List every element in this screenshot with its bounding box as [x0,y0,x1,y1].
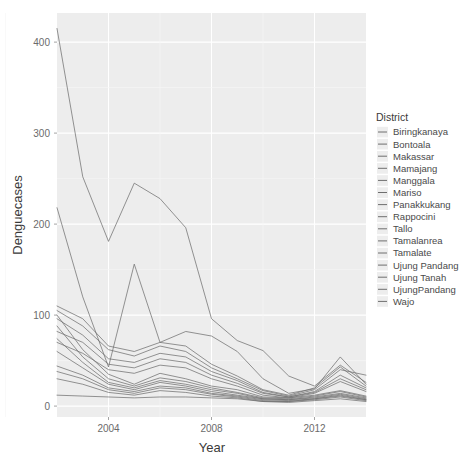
legend-item-label: Tamalanrea [393,235,443,246]
x-tick-label: 2012 [303,423,326,434]
y-tick-label: 100 [33,310,50,321]
legend-item[interactable]: Biringkanaya [377,126,449,137]
chart-container: 200420082012 0100200300400 DistrictBirin… [0,0,469,469]
legend-item[interactable]: Mamajang [377,163,437,174]
dengue-cases-line-chart: 200420082012 0100200300400 DistrictBirin… [0,0,469,469]
legend-item-label: UjungPandang [393,284,456,295]
legend-item-label: Mariso [393,187,422,198]
legend-item-label: Makassar [393,151,434,162]
x-axis-title: Year [199,440,226,455]
y-tick-label: 0 [44,401,50,412]
legend-item-label: Biringkanaya [393,126,449,137]
legend-item-label: Manggala [393,175,435,186]
legend-item[interactable]: Wajo [377,296,414,307]
legend-item-label: Bontoala [393,139,431,150]
y-tick-label: 300 [33,128,50,139]
legend-item-label: Tamalate [393,247,432,258]
legend-item-label: Rappocini [393,211,435,222]
y-tick-label: 400 [33,37,50,48]
legend-item[interactable]: Tamalate [377,247,432,258]
legend-item[interactable]: Manggala [377,175,435,186]
legend-item[interactable]: Tamalanrea [377,235,443,246]
legend-item-label: Ujung Tanah [393,272,446,283]
legend-item[interactable]: Mariso [377,187,422,198]
x-tick-label: 2008 [200,423,223,434]
legend-item-label: Mamajang [393,163,437,174]
legend-item-label: Ujung Pandang [393,260,459,271]
legend-item-label: Wajo [393,296,414,307]
legend-item[interactable]: Makassar [377,151,434,162]
y-tick-label: 200 [33,219,50,230]
x-tick-label: 2004 [97,423,120,434]
legend-item-label: Panakkukang [393,199,451,210]
legend-item[interactable]: Rappocini [377,211,435,222]
y-axis-title: Denguecases [10,175,25,255]
legend-item-label: Tallo [393,223,413,234]
legend-title: District [376,111,408,123]
legend-item[interactable]: Ujung Tanah [377,272,446,283]
legend-item[interactable]: Bontoala [377,139,431,150]
legend-item[interactable]: Tallo [377,223,413,234]
